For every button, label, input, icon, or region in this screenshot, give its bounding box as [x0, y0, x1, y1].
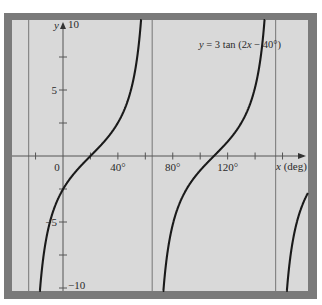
- y-tick-label: 10: [68, 18, 80, 30]
- y-tick-label: 5: [52, 84, 58, 96]
- y-tick-label: −5: [45, 216, 57, 228]
- x-tick-label: 0: [54, 161, 60, 173]
- x-axis-label: x (deg): [275, 160, 307, 173]
- x-tick-label: 40°: [110, 161, 125, 173]
- y-tick-label: −10: [68, 279, 86, 291]
- y-axis-label: y: [53, 19, 59, 31]
- x-tick-label: 120°: [217, 161, 238, 173]
- equation-label: y = 3 tan (2x − 40°): [198, 39, 281, 51]
- tangent-chart: 040°80°120°105−5−10 y = 3 tan (2x − 40°)…: [0, 0, 322, 305]
- x-tick-label: 80°: [165, 161, 180, 173]
